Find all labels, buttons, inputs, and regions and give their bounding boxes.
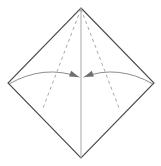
fold-diagram-canvas: Origami fold step diagram Square paper r… [0, 0, 161, 166]
origami-fold-diagram: Origami fold step diagram Square paper r… [0, 0, 161, 166]
